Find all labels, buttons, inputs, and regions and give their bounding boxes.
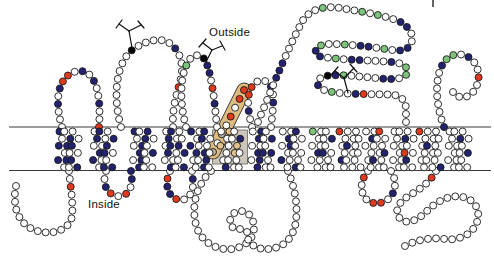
residue <box>396 60 403 67</box>
residue <box>308 157 315 164</box>
residue <box>264 96 271 103</box>
residue <box>175 142 182 149</box>
residue <box>355 135 362 142</box>
residue <box>245 91 252 98</box>
residue <box>262 128 269 135</box>
residue <box>265 246 272 253</box>
residue <box>270 82 277 89</box>
residue <box>421 149 428 156</box>
residue <box>388 76 395 83</box>
residue <box>409 164 416 171</box>
residue <box>424 207 431 214</box>
residue <box>359 189 366 196</box>
residue <box>298 149 305 156</box>
glycan-icon <box>119 24 129 31</box>
residue <box>404 44 411 51</box>
residue <box>236 95 243 102</box>
residue <box>379 142 386 149</box>
residue <box>248 157 255 164</box>
residue <box>56 85 63 92</box>
residue <box>202 174 209 181</box>
residue <box>69 128 76 135</box>
residue <box>113 92 120 99</box>
residue <box>410 190 417 197</box>
residue <box>364 57 371 64</box>
residue <box>142 135 149 142</box>
residue <box>192 195 199 202</box>
residue <box>198 135 205 142</box>
residue <box>140 164 147 171</box>
residue <box>204 62 211 69</box>
glycan-icon <box>220 41 225 50</box>
residue <box>114 108 121 115</box>
residue <box>68 157 75 164</box>
residue <box>293 206 300 213</box>
residue <box>376 128 383 135</box>
residue <box>397 19 404 26</box>
residue <box>357 164 364 171</box>
residue <box>278 157 285 164</box>
glycan-icon <box>129 25 141 31</box>
residue <box>465 54 472 61</box>
residue <box>67 183 74 190</box>
residue <box>295 157 302 164</box>
residue <box>474 82 481 89</box>
residue <box>333 41 340 48</box>
residue <box>13 183 20 190</box>
residue <box>458 157 465 164</box>
residue <box>276 67 283 74</box>
residue <box>149 149 156 156</box>
residue <box>465 135 472 142</box>
residue <box>165 149 172 156</box>
residue <box>273 74 280 81</box>
residue <box>208 77 215 84</box>
residue <box>378 157 385 164</box>
residue <box>351 157 358 164</box>
residue <box>403 111 410 118</box>
residue <box>403 142 410 149</box>
residue <box>388 168 395 175</box>
residue <box>325 41 332 48</box>
residue <box>66 175 73 182</box>
residue <box>336 90 343 97</box>
residue <box>464 164 471 171</box>
residue <box>324 54 331 61</box>
residue <box>358 182 365 189</box>
residue <box>403 23 410 30</box>
residue <box>169 115 176 122</box>
residue <box>464 149 471 156</box>
outside-label: Outside <box>209 26 250 38</box>
residue <box>118 124 125 131</box>
residue <box>378 199 385 206</box>
residue <box>69 207 76 214</box>
residue <box>322 128 329 135</box>
residue <box>456 149 463 156</box>
residue <box>96 108 103 115</box>
residue <box>434 93 441 100</box>
residue <box>436 69 443 76</box>
glycan-icon <box>212 46 222 50</box>
residue <box>305 11 312 18</box>
residue <box>368 149 375 156</box>
residue <box>458 142 465 149</box>
residue <box>50 229 57 236</box>
residue <box>180 69 187 76</box>
residue <box>394 207 401 214</box>
residue <box>348 56 355 63</box>
residue <box>290 182 297 189</box>
residue <box>191 212 198 219</box>
residue <box>183 62 190 69</box>
residue <box>237 226 244 233</box>
residue <box>403 157 410 164</box>
residue <box>445 157 452 164</box>
residue <box>381 45 388 52</box>
residue <box>317 53 324 60</box>
residue <box>403 194 410 201</box>
residue <box>96 100 103 107</box>
residue <box>96 116 103 123</box>
residue <box>206 69 213 76</box>
residue <box>335 4 342 11</box>
residue <box>352 142 359 149</box>
residue <box>443 56 450 63</box>
residue <box>433 235 440 242</box>
